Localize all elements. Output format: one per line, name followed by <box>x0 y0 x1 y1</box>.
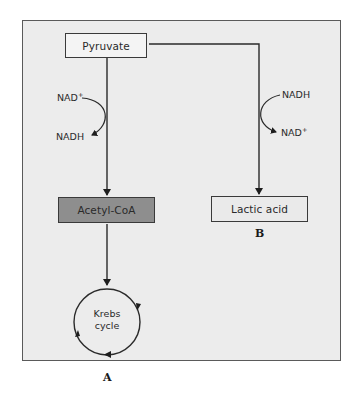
cofactor-a-out: NADH <box>56 131 84 142</box>
cofactor-curve-b <box>261 95 280 132</box>
cofactor-a-out-text: NADH <box>56 131 84 142</box>
cycle-arrowhead-icon <box>136 303 141 311</box>
node-acetyl-coa: Acetyl-CoA <box>58 197 155 223</box>
krebs-label-line2: cycle <box>82 320 132 332</box>
node-pyruvate-label: Pyruvate <box>82 40 130 52</box>
krebs-cycle-label: Krebs cycle <box>82 308 132 332</box>
node-lactic-acid: Lactic acid <box>211 196 308 222</box>
node-pyruvate: Pyruvate <box>65 33 147 58</box>
pathway-label-a: A <box>103 371 112 384</box>
cofactor-a-in-text: NAD <box>57 92 78 103</box>
node-acetyl-coa-label: Acetyl-CoA <box>77 204 135 216</box>
cofactor-b-out: NAD+ <box>281 127 307 138</box>
cycle-arrowhead-icon <box>104 351 111 358</box>
cofactor-b-in-text: NADH <box>282 89 310 100</box>
krebs-label-line1: Krebs <box>82 308 132 320</box>
arrow-pyruvate-to-lactic-acid <box>149 44 259 194</box>
cofactor-b-out-text: NAD <box>281 127 302 138</box>
cofactor-curve-a <box>82 98 105 135</box>
node-lactic-acid-label: Lactic acid <box>231 203 288 215</box>
cofactor-a-in-charge: + <box>78 91 83 99</box>
pathway-label-b: B <box>255 227 264 240</box>
cofactor-a-in: NAD+ <box>57 92 83 103</box>
cofactor-b-out-charge: + <box>302 126 307 134</box>
cofactor-b-in: NADH <box>282 89 310 100</box>
